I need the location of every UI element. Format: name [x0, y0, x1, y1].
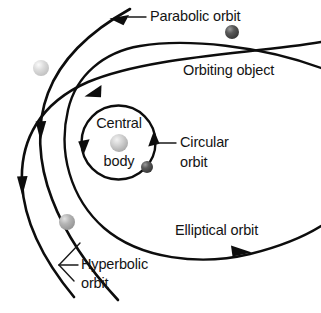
hyperbolic-orbit-group — [17, 42, 321, 297]
orbit-diagram-canvas — [0, 0, 321, 313]
label-circular-orbit-line2: orbit — [180, 154, 207, 171]
central-body — [110, 134, 128, 152]
label-parabolic-orbit: Parabolic orbit — [150, 8, 240, 25]
hyperbolic-orbit-arrow — [17, 176, 28, 196]
label-circular-orbit-line1: Circular — [180, 134, 229, 151]
label-central-body-line2: body — [89, 153, 149, 170]
hyperbolic-orbit-path — [22, 42, 321, 297]
label-hyperbolic-orbit-line1: Hyperbolic — [81, 256, 148, 273]
label-central-body-line1: Central — [89, 115, 149, 132]
circular-orbit-arrow-left — [78, 139, 89, 155]
label-elliptical-orbit: Elliptical orbit — [175, 222, 258, 239]
object-on-hyperbolic-orbit-top — [225, 25, 239, 39]
label-orbiting-object: Orbiting object — [183, 62, 274, 79]
hyperbolic-label-leader-up — [59, 243, 80, 265]
elliptical-orbit-arrow-upper — [85, 85, 102, 97]
object-on-hyperbolic-orbit-left — [33, 60, 49, 76]
label-hyperbolic-orbit-line2: orbit — [81, 275, 108, 292]
parabolic-orbit-arrow-left — [36, 121, 47, 141]
circular-orbit-arrow-right — [148, 131, 159, 147]
orbit-diagram: Parabolic orbit Orbiting object Central … — [0, 0, 321, 313]
object-on-parabolic-orbit — [59, 214, 75, 230]
